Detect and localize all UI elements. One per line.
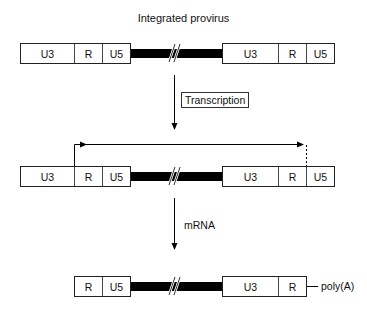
connector-lines: [0, 0, 367, 311]
